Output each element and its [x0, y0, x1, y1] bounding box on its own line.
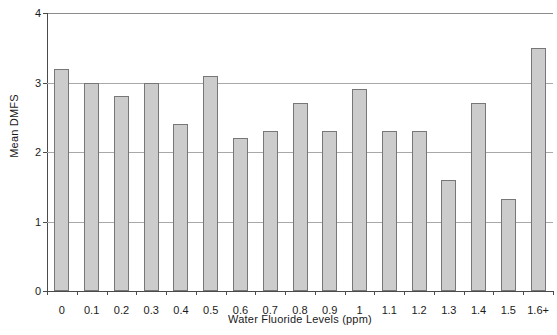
x-tick-mark	[196, 291, 197, 295]
y-tick-label: 2	[35, 147, 41, 158]
bars-layer	[47, 13, 553, 291]
x-tick-mark	[107, 291, 108, 295]
bar	[471, 103, 486, 291]
plot-area: 01234 00.10.20.30.40.50.60.70.80.911.11.…	[47, 13, 553, 291]
bar	[412, 131, 427, 291]
x-tick-mark	[374, 291, 375, 295]
bar	[293, 103, 308, 291]
bar	[233, 138, 248, 291]
y-tick-label: 1	[35, 216, 41, 227]
x-tick-mark	[226, 291, 227, 295]
y-tick-label: 0	[35, 286, 41, 297]
bar	[203, 76, 218, 291]
bar	[173, 124, 188, 291]
x-tick-mark	[315, 291, 316, 295]
x-axis-title: Water Fluoride Levels (ppm)	[47, 313, 553, 325]
x-tick-mark	[493, 291, 494, 295]
bar	[114, 96, 129, 291]
x-tick-mark	[553, 291, 554, 295]
bar	[352, 89, 367, 291]
bar	[263, 131, 278, 291]
y-tick-label: 4	[35, 8, 41, 19]
x-tick-mark	[47, 291, 48, 295]
bar-chart: Mean DMFS 01234 00.10.20.30.40.50.60.70.…	[0, 0, 557, 335]
bar	[501, 199, 516, 291]
y-axis-title: Mean DMFS	[8, 66, 20, 186]
x-tick-mark	[345, 291, 346, 295]
bar	[84, 83, 99, 292]
x-tick-mark	[464, 291, 465, 295]
x-tick-mark	[404, 291, 405, 295]
x-tick-mark	[285, 291, 286, 295]
bar	[54, 69, 69, 291]
x-tick-mark	[166, 291, 167, 295]
x-axis-line	[47, 291, 553, 292]
x-tick-mark	[136, 291, 137, 295]
bar	[382, 131, 397, 291]
bar	[531, 48, 546, 291]
y-tick-label: 3	[35, 77, 41, 88]
bar	[144, 83, 159, 292]
bar	[441, 180, 456, 291]
bar	[322, 131, 337, 291]
x-tick-mark	[77, 291, 78, 295]
x-tick-mark	[434, 291, 435, 295]
x-tick-mark	[523, 291, 524, 295]
x-tick-mark	[255, 291, 256, 295]
